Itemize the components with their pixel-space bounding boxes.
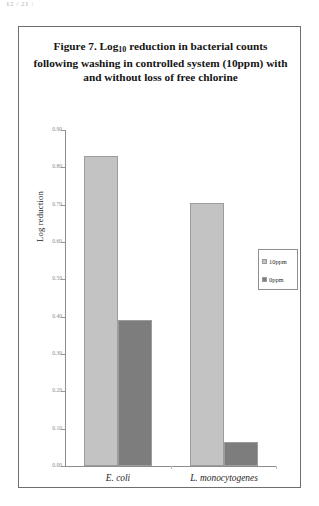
y-tick-row: 0.20 bbox=[65, 391, 66, 392]
x-axis-label-Lmonocytogenes: L. monocytogenes bbox=[171, 473, 277, 483]
x-tick-mark bbox=[276, 466, 277, 469]
y-axis-title: Log reduction bbox=[35, 191, 45, 242]
x-tick-mark bbox=[171, 466, 172, 469]
y-tick-label: 0.70 bbox=[52, 200, 62, 209]
y-tick-label: 0.40 bbox=[52, 312, 62, 321]
y-tick-row: 0.10 bbox=[65, 429, 66, 430]
y-tick-label: 0.60 bbox=[52, 237, 62, 246]
y-tick-row: 0.30 bbox=[65, 354, 66, 355]
legend-label-10ppm: 10ppm bbox=[269, 258, 287, 266]
y-tick-label: 0.90 bbox=[52, 125, 62, 134]
chart-legend: 10ppm 0ppm bbox=[258, 249, 298, 290]
y-tick-label: 0.80 bbox=[52, 162, 62, 171]
y-tick-label: 0.30 bbox=[52, 349, 62, 358]
y-tick-row: 0.90 bbox=[65, 130, 66, 131]
y-tick-row: 0.00 bbox=[65, 466, 66, 467]
figure-container: Figure 7. Log10 reduction in bacterial c… bbox=[18, 26, 301, 488]
y-tick-row: 0.50 bbox=[65, 279, 66, 280]
y-tick-row: 0.60 bbox=[65, 242, 66, 243]
y-tick-label: 0.20 bbox=[52, 386, 62, 395]
legend-swatch-0ppm bbox=[262, 277, 267, 282]
scan-edge-fragment: 12 / 21 : bbox=[6, 0, 34, 8]
y-tick-row: 0.80 bbox=[65, 167, 66, 168]
y-tick-row: 0.70 bbox=[65, 205, 66, 206]
y-tick-label: 0.10 bbox=[52, 424, 62, 433]
y-tick-row: 0.40 bbox=[65, 317, 66, 318]
plot-area: 0.000.100.200.300.400.500.600.700.800.90… bbox=[65, 130, 277, 466]
legend-label-0ppm: 0ppm bbox=[269, 276, 284, 284]
chart-plot-wrapper: Log reduction 0.000.100.200.300.400.500.… bbox=[19, 27, 302, 489]
bar-0ppm-Ecoli bbox=[118, 320, 152, 466]
legend-item-0ppm: 0ppm bbox=[262, 275, 284, 284]
bar-10ppm-Ecoli bbox=[84, 156, 118, 466]
legend-swatch-10ppm bbox=[262, 259, 267, 264]
y-axis-line bbox=[65, 130, 66, 466]
y-tick-label: 0.00 bbox=[52, 461, 62, 470]
y-tick-label: 0.50 bbox=[52, 274, 62, 283]
legend-item-10ppm: 10ppm bbox=[262, 257, 287, 266]
bar-0ppm-Lmonocytogenes bbox=[224, 442, 258, 466]
bar-10ppm-Lmonocytogenes bbox=[190, 203, 224, 466]
y-axis-title-anchor: Log reduction bbox=[37, 130, 38, 466]
x-axis-label-Ecoli: E. coli bbox=[65, 473, 171, 483]
